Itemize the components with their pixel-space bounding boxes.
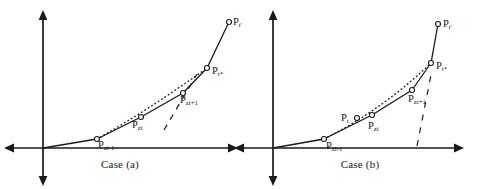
- label-p-t-prime: Pt': [443, 19, 452, 30]
- dashed-tangent-line: [417, 70, 432, 146]
- marker-p-zi: [139, 115, 144, 120]
- label-p-zi-minus-1: Pzi-1: [98, 140, 114, 151]
- horizontal-axis-arrow-right: [454, 144, 464, 153]
- marker-p-t-prime: [436, 22, 441, 27]
- label-p-t: Pt: [341, 113, 349, 124]
- marker-p-t: [355, 116, 360, 121]
- label-p-zi: Pzi: [132, 120, 143, 131]
- label-p-t-star: Pt*: [436, 61, 447, 72]
- label-p-zi: Pzi: [368, 121, 379, 132]
- marker-p-t-star: [205, 66, 210, 71]
- label-p-zi-plus-1: Pzi+1: [408, 94, 426, 105]
- caption-case-b: Case (b): [240, 158, 480, 170]
- horizontal-axis-arrow-left: [4, 144, 14, 153]
- figure-two-case-diagram: Pzi-1 Pzi Pzi+1 Pt* Pt': [0, 0, 480, 189]
- vertical-axis-arrow-top: [269, 10, 278, 20]
- marker-p-t-star: [429, 61, 434, 66]
- vertical-axis-arrow-bottom: [39, 176, 48, 186]
- marker-p-zi: [370, 113, 375, 118]
- vertical-axis-arrow-bottom: [269, 176, 278, 186]
- label-p-zi-minus-1: Pzi-1: [326, 141, 342, 152]
- marker-p-t-prime: [227, 20, 232, 25]
- label-p-t-star: Pt*: [212, 66, 223, 77]
- vertical-axis-arrow-top: [39, 10, 48, 20]
- solid-curve-polyline: [273, 24, 438, 148]
- label-p-zi-plus-1: Pzi+1: [180, 95, 198, 106]
- caption-case-a: Case (a): [0, 158, 240, 170]
- marker-p-zi-plus-1: [410, 88, 415, 93]
